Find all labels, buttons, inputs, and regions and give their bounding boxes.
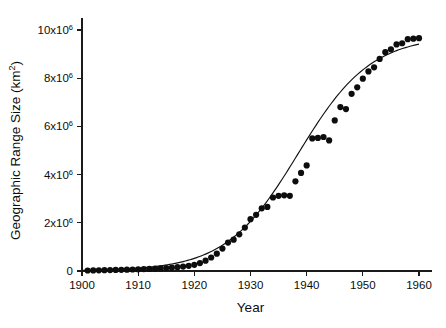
y-tick-label: 10x106: [37, 23, 73, 36]
fit-curve: [82, 44, 419, 270]
data-point: [118, 267, 124, 273]
x-tick-label: 1900: [69, 279, 95, 291]
y-tick-label: 8x106: [44, 71, 73, 84]
data-point: [371, 64, 377, 70]
y-axis-title: Geographic Range Size (km2): [7, 61, 23, 240]
data-point: [236, 231, 242, 237]
data-point: [163, 265, 169, 271]
data-series: [85, 35, 423, 274]
data-point: [129, 266, 135, 272]
data-point: [231, 237, 237, 243]
y-tick-label: 0: [67, 265, 73, 277]
data-point: [146, 266, 152, 272]
x-tick-label: 1960: [406, 279, 432, 291]
data-point: [270, 194, 276, 200]
data-point: [405, 36, 411, 42]
data-point: [304, 162, 310, 168]
data-point: [365, 68, 371, 74]
data-point: [202, 258, 208, 264]
data-point: [101, 267, 107, 273]
data-point: [253, 212, 259, 218]
x-axis-title: Year: [237, 300, 265, 315]
data-point: [264, 204, 270, 210]
data-point: [315, 135, 321, 141]
data-point: [219, 245, 225, 251]
data-point: [382, 49, 388, 55]
data-point: [85, 267, 91, 273]
data-point: [197, 260, 203, 266]
data-point: [180, 263, 186, 269]
data-point: [135, 266, 141, 272]
data-point: [393, 41, 399, 47]
data-point: [275, 193, 281, 199]
y-axis: 02x1064x1066x1068x10610x106Geographic Ra…: [7, 23, 82, 277]
data-point: [343, 106, 349, 112]
data-point: [174, 264, 180, 270]
x-axis: 1900191019201930194019501960Year: [69, 271, 432, 315]
data-point: [191, 262, 197, 268]
x-tick-label: 1920: [182, 279, 208, 291]
data-point: [298, 170, 304, 176]
x-tick-label: 1940: [294, 279, 320, 291]
data-point: [259, 205, 265, 211]
data-point: [332, 117, 338, 123]
data-point: [377, 56, 383, 62]
data-point: [320, 134, 326, 140]
chart-figure: 1900191019201930194019501960Year02x1064x…: [0, 0, 446, 328]
data-point: [360, 76, 366, 82]
data-point: [208, 254, 214, 260]
data-point: [141, 266, 147, 272]
data-point: [107, 267, 113, 273]
data-point: [399, 40, 405, 46]
y-tick-label: 6x106: [44, 119, 73, 132]
data-point: [410, 36, 416, 42]
data-point: [349, 91, 355, 97]
data-point: [186, 263, 192, 269]
data-point: [416, 35, 422, 41]
y-tick-label: 4x106: [44, 168, 73, 181]
x-tick-label: 1930: [238, 279, 264, 291]
x-tick-label: 1950: [350, 279, 376, 291]
data-point: [124, 267, 130, 273]
data-point: [247, 216, 253, 222]
data-point: [152, 266, 158, 272]
data-point: [96, 267, 102, 273]
data-point: [292, 178, 298, 184]
data-point: [242, 225, 248, 231]
data-point: [287, 193, 293, 199]
data-point: [337, 104, 343, 110]
data-point: [158, 265, 164, 271]
data-point: [214, 251, 220, 257]
scatter-plot: 1900191019201930194019501960Year02x1064x…: [0, 0, 446, 328]
x-tick-label: 1910: [125, 279, 151, 291]
data-point: [90, 267, 96, 273]
y-tick-label: 2x106: [44, 216, 73, 229]
data-point: [113, 267, 119, 273]
data-point: [326, 137, 332, 143]
data-point: [354, 84, 360, 90]
data-point: [388, 46, 394, 52]
data-point: [281, 192, 287, 198]
data-point: [225, 239, 231, 245]
data-point: [309, 135, 315, 141]
data-point: [169, 265, 175, 271]
